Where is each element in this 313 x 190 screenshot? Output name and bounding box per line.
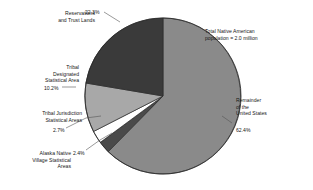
total-population-annotation: Total Native American population = 2.0 m… (205, 28, 309, 41)
pie-chart-figure: Reservations and Trust Lands 22.3% Triba… (0, 0, 313, 190)
leader-line-reservations (104, 12, 120, 22)
slice-label-alaska-native-village-statistical-areas: Alaska Native Village Statistical Areas (9, 150, 71, 170)
slice-label-tribal-jurisdiction-statistical-areas: Tribal Jurisdiction Statistical Areas (12, 110, 82, 123)
slice-value-tribal-designated-statistical-area: 10.2% (44, 85, 58, 92)
slice-value-alaska-native-village-statistical-areas: 2.4% (73, 150, 85, 157)
slice-value-tribal-jurisdiction-statistical-areas: 2.7% (53, 127, 65, 134)
slice-label-tribal-designated-statistical-area: Tribal Designated Statistical Area (16, 64, 79, 84)
slice-value-remainder-of-the-united-states: 62.4% (236, 127, 250, 134)
pie-slice-reservations-and-trust-lands (86, 18, 163, 96)
slice-label-remainder-of-the-united-states: Remainder of the United States (236, 97, 310, 117)
slice-value-reservations-and-trust-lands: 22.3% (85, 9, 99, 16)
